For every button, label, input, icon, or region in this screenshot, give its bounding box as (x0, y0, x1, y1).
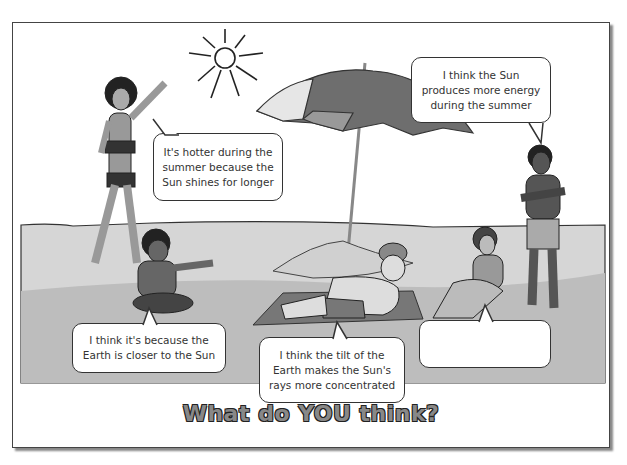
question-title: What do YOU think? (13, 401, 609, 426)
speech-bubble-boy-sitting: I think it's because the Earth is closer… (72, 323, 226, 373)
sun-icon (189, 29, 263, 98)
bubble-text: I think the Sun produces more energy dur… (418, 68, 544, 113)
bubble-text: I think the tilt of the Earth makes the … (266, 348, 398, 393)
speech-bubble-girl-sitting-empty (419, 320, 551, 368)
speech-bubble-girl-standing: It's hotter during the summer because th… (153, 133, 283, 201)
bubble-tail (527, 121, 551, 145)
concept-cartoon-frame: It's hotter during the summer because th… (12, 22, 610, 448)
bubble-text: It's hotter during the summer because th… (160, 145, 276, 190)
bubble-text: I think it's because the Earth is closer… (79, 333, 219, 363)
speech-bubble-boy-standing: I think the Sun produces more energy dur… (411, 57, 551, 123)
speech-bubble-man-lying: I think the tilt of the Earth makes the … (259, 337, 405, 403)
bubble-tail (331, 320, 351, 340)
bubble-tail (477, 303, 497, 323)
bubble-tail (151, 117, 181, 137)
bubble-tail (141, 306, 161, 326)
